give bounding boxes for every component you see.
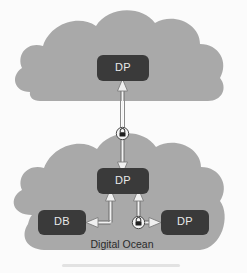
node-middle-dp[interactable]: DP: [97, 168, 149, 194]
node-bottom-dp[interactable]: DP: [161, 210, 209, 235]
lock-icon-lower-body: [136, 221, 142, 225]
lock-badge-upper: [116, 127, 128, 139]
lower-cloud-label: Digital Ocean: [90, 238, 153, 250]
scan-artifact: [62, 264, 180, 267]
lock-icon-upper-body: [120, 132, 126, 136]
node-top-dp-label: DP: [115, 61, 131, 73]
node-bottom-dp-label: DP: [177, 215, 193, 227]
lock-badge-lower: [132, 216, 144, 228]
diagram-canvas: Digital Ocean top-dp ===== --> DB ===== …: [0, 0, 247, 273]
node-top-dp[interactable]: DP: [97, 55, 149, 81]
node-db-label: DB: [54, 215, 70, 227]
node-db[interactable]: DB: [38, 210, 86, 235]
node-middle-dp-label: DP: [115, 174, 131, 186]
